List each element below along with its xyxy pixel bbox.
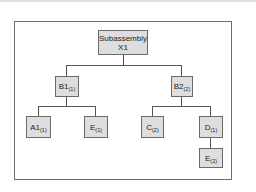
quantity: (1)	[95, 127, 102, 133]
node-label: Subassembly	[99, 34, 147, 43]
quantity: (2)	[184, 86, 191, 92]
connector-to-e1	[95, 106, 96, 116]
connector-root-down	[123, 54, 124, 65]
connector-to-d1	[210, 106, 211, 116]
node-label: A1(1)	[30, 123, 47, 132]
part-name: A1	[30, 123, 40, 132]
connector-to-c2	[152, 106, 153, 116]
quantity: (2)	[152, 127, 159, 133]
connector-b1-horizontal	[38, 106, 96, 107]
connector-to-b2	[181, 65, 182, 76]
node-d1: D(1)	[199, 116, 223, 138]
node-label: E(1)	[90, 123, 102, 132]
node-label: D(1)	[205, 123, 218, 132]
node-label: B2(2)	[174, 82, 191, 91]
quantity: (1)	[40, 127, 47, 133]
node-c2: C(2)	[141, 116, 164, 138]
part-name: B2	[174, 82, 184, 91]
quantity: (1)	[211, 127, 218, 133]
quantity: (1)	[69, 86, 76, 92]
node-b2: B2(2)	[171, 76, 193, 97]
connector-b2-horizontal	[152, 106, 211, 107]
connector-level1-horizontal	[66, 65, 182, 66]
connector-to-b1	[66, 65, 67, 76]
node-label: B1(1)	[59, 82, 76, 91]
top-divider	[0, 0, 256, 2]
node-subassembly-x1: Subassembly X1	[98, 30, 148, 55]
node-a1: A1(1)	[26, 116, 51, 138]
connector-b1-down	[66, 96, 67, 106]
node-e1: E(1)	[84, 116, 108, 138]
node-label: X1	[118, 43, 128, 52]
node-b1: B1(1)	[55, 76, 79, 97]
node-e2: E(2)	[199, 148, 223, 168]
connector-d1-to-e2	[210, 137, 211, 148]
part-name: B1	[59, 82, 69, 91]
node-label: E(2)	[205, 154, 217, 163]
node-label: C(2)	[146, 123, 159, 132]
quantity: (2)	[210, 158, 217, 164]
connector-to-a1	[38, 106, 39, 116]
connector-b2-down	[181, 96, 182, 106]
